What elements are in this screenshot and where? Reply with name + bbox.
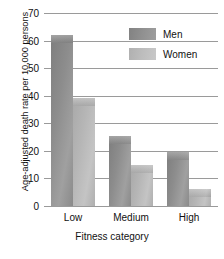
bar-high-men xyxy=(167,152,189,206)
bar-low-men xyxy=(51,35,73,206)
y-axis-title: Age-adjusted death rate per 10,000 perso… xyxy=(19,4,30,200)
y-tick-label: 0 xyxy=(33,201,39,212)
bar-highlight xyxy=(73,98,95,106)
bar-low-women xyxy=(73,98,95,206)
x-tick-label-medium: Medium xyxy=(113,212,149,223)
bar-highlight xyxy=(131,165,153,173)
bar-high-women xyxy=(189,189,211,206)
bar-highlight xyxy=(167,152,189,160)
bar-chart-figure: Age-adjusted death rate per 10,000 perso… xyxy=(0,0,224,259)
bar-medium-women xyxy=(131,165,153,206)
bar-medium-men xyxy=(109,136,131,206)
x-axis-title: Fitness category xyxy=(0,231,224,242)
y-tick-label: 60 xyxy=(28,35,39,46)
bar-highlight xyxy=(51,35,73,43)
x-axis-line xyxy=(44,206,218,207)
chart-legend: Men Women xyxy=(129,25,197,65)
bar-highlight xyxy=(189,189,211,197)
y-tick-label: 10 xyxy=(28,173,39,184)
y-tick-label: 40 xyxy=(28,90,39,101)
women-swatch-icon xyxy=(129,48,156,60)
y-tick-label: 20 xyxy=(28,145,39,156)
legend-item-women: Women xyxy=(129,45,197,63)
men-swatch-icon xyxy=(129,28,156,40)
legend-item-men: Men xyxy=(129,25,197,43)
legend-label-women: Women xyxy=(163,49,197,60)
x-tick-label-low: Low xyxy=(64,212,82,223)
y-tick-label: 70 xyxy=(28,8,39,19)
y-tick-label: 50 xyxy=(28,63,39,74)
legend-label-men: Men xyxy=(163,29,182,40)
y-tick-label: 30 xyxy=(28,118,39,129)
bar-highlight xyxy=(109,136,131,144)
x-tick-label-high: High xyxy=(179,212,200,223)
